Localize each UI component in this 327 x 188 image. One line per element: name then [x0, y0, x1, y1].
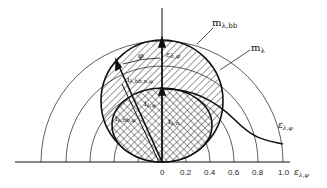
x-axis-ticks: 0 0.2 0.4 0.6 0.8 1.0 — [160, 168, 290, 177]
label-eps-vertical: ελ,φ — [166, 50, 181, 60]
svg-text:1.0: 1.0 — [278, 168, 290, 177]
emissivity-polar-diagram: mλ,bb mλ ελ,φ ελ,φ φ iλ,bb,n,φ iλ,φ iλ,b… — [0, 0, 327, 188]
label-eps-curve: ελ,φ — [278, 120, 294, 132]
svg-text:0.2: 0.2 — [180, 168, 192, 177]
label-m-bb: mλ,bb — [212, 17, 238, 30]
svg-text:0.6: 0.6 — [228, 168, 240, 177]
svg-text:0: 0 — [160, 168, 165, 177]
svg-text:0.4: 0.4 — [204, 168, 216, 177]
x-axis-label: ελ,φ — [294, 167, 310, 179]
label-phi: φ — [138, 51, 144, 60]
svg-text:0.8: 0.8 — [252, 168, 264, 177]
label-m: mλ — [251, 42, 265, 55]
